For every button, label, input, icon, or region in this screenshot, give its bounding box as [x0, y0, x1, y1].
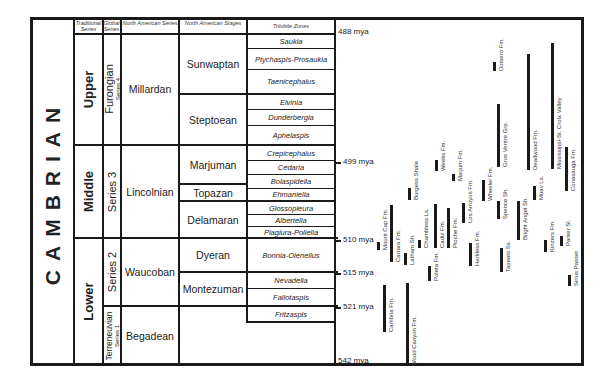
formation-bar	[404, 253, 407, 265]
zone-elvinia: Elvinia	[248, 95, 334, 109]
global-terreneuvian: TerreneuvianSeries 1	[104, 307, 120, 364]
traditional-middle: Middle	[75, 146, 102, 237]
global-label: FurongianSeries 4	[103, 64, 121, 114]
formation-label: Bright Angel Sh.	[522, 197, 528, 240]
age-521: 521 mya	[343, 302, 374, 311]
formation-bar	[517, 201, 520, 240]
formation-bar	[482, 180, 485, 201]
na-series-waucoban: Waucoban	[122, 239, 178, 305]
global-label: Series 3	[106, 171, 118, 211]
header-global-series: Global Series	[103, 20, 120, 32]
period-cell: CAMBRIAN	[33, 20, 73, 363]
global-series-2: Series 2	[104, 239, 120, 305]
age-488: 488 mya	[338, 27, 369, 36]
stage-montezuman: Montezuman	[180, 273, 246, 305]
formation-label: Gros Ventre Grp.	[502, 122, 508, 167]
global-label: Series 2	[106, 252, 118, 292]
zone-cedaria: Cedaria	[248, 161, 334, 174]
formation-bar	[527, 54, 530, 170]
formation-label: Harkless Fm.	[474, 231, 480, 266]
zone-divider	[246, 321, 334, 323]
formation-label: Wheeler Fm.	[487, 167, 493, 201]
formation-label: Marjum Fm.	[457, 149, 463, 181]
formation-label: Poleta Fm.	[433, 252, 439, 281]
age-499: 499 mya	[343, 157, 374, 166]
traditional-upper: Upper	[75, 34, 102, 144]
zone-ptychaspis: Ptychaspis-Prosaukia	[248, 49, 334, 69]
formation-label: Spence Sh.	[502, 188, 508, 219]
traditional-label: Lower	[81, 282, 96, 320]
formation-bar	[565, 147, 568, 191]
header-trilobite-zones: Trilobite Zones	[248, 23, 334, 29]
formation-label: Carrara Fm.	[395, 230, 401, 262]
formation-label: Muav Ls.	[538, 176, 544, 200]
age-tick	[336, 162, 341, 164]
formation-label: Parker Sl.	[565, 220, 571, 246]
zone-albertella: Albertella	[248, 215, 334, 226]
formation-bar	[447, 208, 450, 248]
formation-bar	[452, 174, 455, 181]
formation-label: Weeks Fm.	[440, 141, 446, 171]
formation-label: Cadiz Fm.	[439, 221, 445, 248]
formation-label: Latham Sh.	[409, 234, 415, 265]
formation-bar	[418, 240, 421, 248]
formation-label: Los Arroyos Fm.	[467, 179, 473, 223]
formation-label: Kinzers Fm.	[549, 220, 555, 252]
formation-label: Sirius Passet	[573, 251, 579, 286]
formation-label: Mississippi-St. Croix Valley	[556, 97, 562, 169]
traditional-lower: Lower	[75, 239, 102, 364]
zone-bonnia-olenellus: Bonnia-Olenellus	[248, 239, 334, 271]
global-furongian: FurongianSeries 4	[104, 34, 120, 144]
stage-delamaran: Delamaran	[180, 202, 246, 237]
age-tick	[336, 273, 341, 275]
age-tick	[336, 240, 341, 242]
formation-label: Burgess Shale	[413, 161, 419, 200]
formation-bar	[560, 236, 563, 246]
stage-dyeran: Dyeran	[180, 239, 246, 271]
formation-bar	[406, 283, 409, 366]
divider-zones	[334, 17, 336, 366]
zone-crepicephalus: Crepicephalus	[248, 146, 334, 160]
na-series-lincolnian: Lincolnian	[122, 146, 178, 237]
formation-bar	[544, 240, 547, 252]
formation-label: Dotsero Fm.	[498, 38, 504, 71]
stage-topazan: Topazan	[180, 185, 246, 200]
formation-bar	[551, 43, 554, 169]
zone-glossopleura: Glossopleura	[248, 202, 334, 214]
age-tick	[336, 307, 341, 309]
formation-label: Pioche Fm.	[452, 218, 458, 248]
formation-bar	[435, 160, 438, 171]
global-label: TerreneuvianSeries 1	[104, 311, 120, 360]
zone-aphelaspis: Aphelaspis	[248, 126, 334, 144]
formation-bar	[469, 243, 472, 266]
formation-bar	[390, 205, 393, 262]
period-label: CAMBRIAN	[41, 98, 65, 284]
formation-bar	[533, 186, 536, 200]
formation-bar	[497, 201, 500, 219]
zone-dunderbergia: Dunderbergia	[248, 110, 334, 125]
stage-steptoean: Steptoean	[180, 95, 246, 144]
formation-label: Cambria Fm.	[388, 297, 394, 332]
zone-taenicephalus: Taenicephalus	[248, 70, 334, 93]
formation-bar	[383, 285, 386, 332]
stage-marjuman: Marjuman	[180, 146, 246, 183]
zone-nevadella: Nevadella	[248, 273, 334, 288]
stage-sunwaptan: Sunwaptan	[180, 34, 246, 93]
formation-label: Deadwood Fm.	[532, 129, 538, 170]
formation-label: Conasauga Fm.	[570, 148, 576, 191]
header-traditional-series: Traditional Series	[75, 20, 102, 32]
formation-bar	[500, 248, 503, 272]
header-na-stages: North American Stages	[180, 20, 246, 26]
age-542: 542 mya	[338, 356, 369, 365]
zone-saukia: Saukia	[248, 34, 334, 48]
formation-bar	[428, 266, 431, 281]
traditional-label: Upper	[81, 70, 96, 108]
formation-bar	[493, 62, 496, 71]
zone-fallotaspis: Fallotaspis	[248, 289, 334, 305]
formation-bar	[497, 104, 500, 167]
formation-bar	[408, 188, 411, 200]
age-510: 510 mya	[343, 235, 374, 244]
zone-plagiura-poliella: Plagiura-Poliella	[248, 227, 334, 237]
zone-fritzaspis: Fritzaspis	[248, 307, 334, 321]
formation-label: Wood Canyon Fm.	[411, 316, 417, 366]
